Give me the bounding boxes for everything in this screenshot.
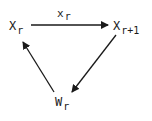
node-x-r-main: X — [9, 19, 16, 33]
node-w-r-sub: r — [63, 101, 69, 112]
edge-label-main: x — [57, 7, 64, 20]
edge-label-sub: r — [65, 11, 71, 22]
node-x-r: Xr — [9, 20, 23, 33]
node-x-r1-sub: r+1 — [121, 25, 139, 36]
edge-wr-to-xr — [23, 42, 54, 92]
node-x-r1-main: X — [113, 19, 120, 33]
node-x-r-sub: r — [17, 25, 23, 36]
node-w-r-main: W — [55, 95, 62, 109]
node-w-r: Wr — [55, 96, 69, 109]
node-x-r-plus-1: Xr+1 — [113, 20, 139, 33]
edge-xr1-to-wr — [72, 35, 116, 92]
edge-label-x-r: xr — [57, 8, 71, 19]
edges-layer — [0, 0, 152, 121]
